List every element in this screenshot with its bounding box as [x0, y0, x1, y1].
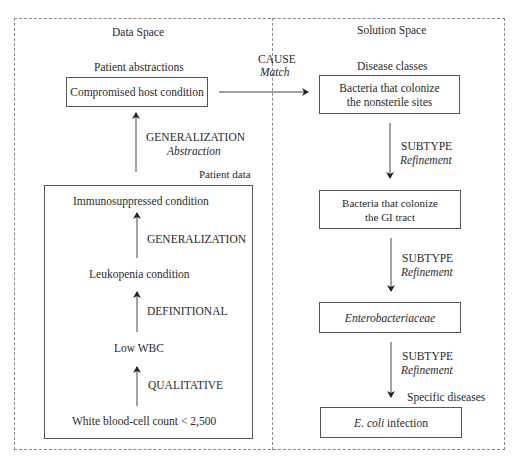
arrows-layer	[0, 0, 519, 464]
